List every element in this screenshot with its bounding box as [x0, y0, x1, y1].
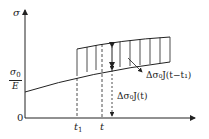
incremented-curve — [77, 37, 170, 49]
hatched-band — [77, 37, 170, 73]
numerator-subscript: 0 — [16, 71, 20, 79]
origin-label: 0 — [17, 113, 23, 123]
x-tick-t1: t1 — [74, 122, 83, 134]
tick-subscript: 1 — [78, 126, 82, 134]
lower-increment-label: Δσ₀J(t) — [117, 92, 148, 101]
upper-increment-label: Δσ₀J(t−t₁) — [146, 71, 191, 80]
sigma0-over-E-label: σ0 E — [9, 68, 22, 91]
y-axis-label: σ — [13, 8, 20, 18]
denominator: E — [12, 81, 19, 91]
x-tick-t: t — [100, 122, 104, 132]
